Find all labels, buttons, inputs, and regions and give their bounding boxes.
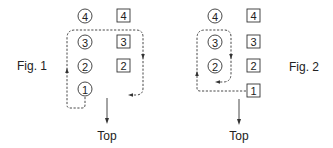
svg-text:1: 1 — [82, 84, 88, 96]
direction-arrow-head-icon — [237, 119, 241, 125]
direction-label: Top — [97, 129, 117, 143]
svg-text:4: 4 — [120, 10, 126, 22]
square-3: 3 — [247, 35, 260, 48]
square-2: 2 — [117, 59, 130, 72]
svg-text:4: 4 — [82, 11, 88, 23]
route-arrow-end-icon — [128, 93, 133, 97]
circle-3: 3 — [78, 35, 92, 49]
circle-4: 4 — [208, 9, 222, 23]
direction-label: Top — [229, 129, 249, 143]
svg-text:3: 3 — [82, 37, 88, 49]
square-4: 4 — [247, 9, 260, 22]
svg-text:2: 2 — [212, 61, 218, 73]
square-3: 3 — [117, 35, 130, 48]
route-arrow-down-icon — [141, 54, 145, 59]
diagram-canvas: Fig. 1 4 3 2 1 4 3 2 — [0, 0, 333, 148]
square-1: 1 — [247, 84, 260, 97]
route-arrow-up-icon — [195, 71, 199, 76]
route-arrow-down-icon — [229, 54, 233, 59]
svg-text:3: 3 — [212, 37, 218, 49]
svg-text:1: 1 — [250, 85, 256, 97]
direction-arrow-head-icon — [105, 118, 109, 124]
svg-text:4: 4 — [212, 11, 218, 23]
svg-text:2: 2 — [250, 60, 256, 72]
svg-text:2: 2 — [82, 61, 88, 73]
figure-2: Fig. 2 4 3 2 4 3 2 1 — [195, 9, 319, 143]
circle-3: 3 — [208, 35, 222, 49]
circle-2: 2 — [208, 59, 222, 73]
svg-text:4: 4 — [250, 10, 256, 22]
circle-1: 1 — [78, 82, 92, 96]
figure-2-label: Fig. 2 — [289, 60, 319, 74]
square-4: 4 — [117, 9, 130, 22]
svg-text:3: 3 — [120, 36, 126, 48]
figure-1: Fig. 1 4 3 2 1 4 3 2 — [17, 9, 145, 143]
svg-text:3: 3 — [250, 36, 256, 48]
route-arrow-end-icon — [215, 80, 220, 84]
figure-1-label: Fig. 1 — [17, 59, 47, 73]
svg-text:2: 2 — [120, 60, 126, 72]
square-2: 2 — [247, 59, 260, 72]
circle-4: 4 — [78, 9, 92, 23]
circle-2: 2 — [78, 59, 92, 73]
route-arrow-up-icon — [65, 68, 69, 73]
